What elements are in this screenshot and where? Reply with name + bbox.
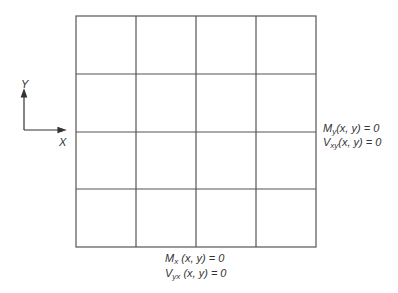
bottom-boundary-shear: Vyx (x, y) = 0 (165, 267, 227, 283)
expression: (x, y) = 0 (336, 122, 379, 134)
x-axis-label: X (59, 136, 66, 149)
axis-arrows (22, 90, 66, 133)
expression: (x, y) = 0 (178, 252, 224, 264)
y-arrow-icon (22, 90, 27, 97)
right-boundary-shear: Vxy(x, y) = 0 (323, 136, 381, 152)
expression: (x, y) = 0 (338, 136, 381, 148)
expression: (x, y) = 0 (180, 267, 226, 279)
symbol: M (165, 252, 174, 264)
plate-grid (76, 16, 316, 247)
symbol: M (323, 122, 332, 134)
x-arrow-icon (58, 128, 65, 133)
bottom-boundary-moment: Mx (x, y) = 0 (165, 252, 224, 268)
y-axis-label: Y (21, 78, 28, 91)
